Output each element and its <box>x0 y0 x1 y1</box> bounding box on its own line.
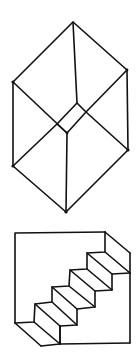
schroeder-staircase <box>15 232 130 346</box>
illusion-drawings <box>0 0 139 358</box>
necker-cube <box>11 22 129 214</box>
